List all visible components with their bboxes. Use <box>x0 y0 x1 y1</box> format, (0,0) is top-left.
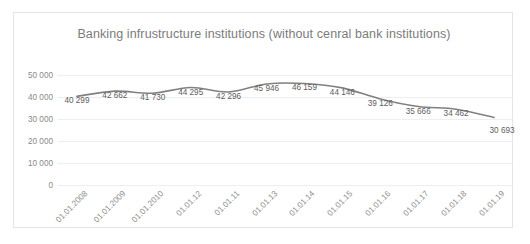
x-axis-tick-label: 01.01.12 <box>174 189 203 218</box>
data-label: 46 159 <box>292 83 317 92</box>
x-axis-tick-label: 01.01.18 <box>440 189 469 218</box>
x-axis-tick-label: 01.01.2010 <box>130 189 165 224</box>
data-label: 45 946 <box>254 84 279 93</box>
x-axis-tick-label: 01.01.14 <box>288 189 317 218</box>
data-label: 34 462 <box>444 109 469 118</box>
x-axis-tick-label: 01.01.19 <box>477 189 506 218</box>
data-label: 44 146 <box>330 88 355 97</box>
y-axis-tick-label: 50 000 <box>28 71 53 80</box>
y-axis-tick-label: 20 000 <box>28 137 53 146</box>
data-label: 44 295 <box>178 88 203 97</box>
x-axis-tick-label: 01.01.17 <box>402 189 431 218</box>
y-axis-tick-label: 0 <box>48 181 53 190</box>
data-label: 39 126 <box>368 99 393 108</box>
x-axis-tick-label: 01.01.2009 <box>92 189 127 224</box>
x-axis-tick-label: 01.01.13 <box>250 189 279 218</box>
x-axis-tick-label: 01.01.11 <box>213 189 241 217</box>
y-axis-tick-label: 40 000 <box>28 93 53 102</box>
y-axis-tick-label: 30 000 <box>28 115 53 124</box>
gridline: 0 <box>58 185 513 186</box>
chart-container: Banking infrustructure institutions (wit… <box>13 12 513 228</box>
plot-area: 010 00020 00030 00040 00050 000 40 29942… <box>58 75 513 185</box>
data-label: 41 730 <box>140 93 165 102</box>
data-label: 35 666 <box>406 107 431 116</box>
y-axis-tick-label: 10 000 <box>28 159 53 168</box>
x-axis: 01.01.200801.01.200901.01.201001.01.1201… <box>58 187 513 239</box>
chart-title: Banking infrustructure institutions (wit… <box>54 25 474 43</box>
data-label: 42 296 <box>216 92 241 101</box>
x-axis-tick-label: 01.01.2008 <box>54 189 89 224</box>
x-axis-tick-label: 01.01.16 <box>364 189 393 218</box>
data-label: 30 693 <box>490 127 515 136</box>
data-label: 40 299 <box>64 96 89 105</box>
data-label: 42 662 <box>102 91 127 100</box>
x-axis-tick-label: 01.01.15 <box>326 189 355 218</box>
